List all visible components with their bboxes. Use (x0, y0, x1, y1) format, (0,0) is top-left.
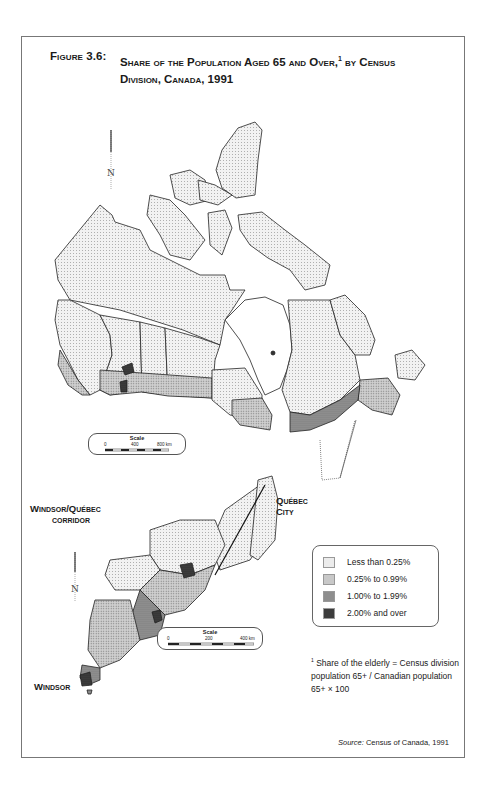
newfoundland (395, 350, 425, 380)
legend-item: 1.00% to 1.99% (323, 590, 407, 602)
source-note: Source: Census of Canada, 1991 (338, 738, 449, 747)
scale-bar-main: Scale 0 400 800 km (88, 433, 186, 455)
scale-bar-inset: Scale 0 200 400 km (157, 627, 263, 650)
ellesmere-island (216, 122, 262, 198)
quebec-east (250, 476, 278, 560)
north-arrow-main-icon: N (107, 130, 115, 190)
svg-text:N: N (71, 584, 79, 594)
quebec-city-label: Québec City (276, 495, 308, 517)
legend-swatch (323, 557, 335, 568)
southwest-ontario (88, 600, 140, 668)
inset-indicator (320, 420, 355, 480)
north-arrow-inset-icon: N (71, 552, 79, 602)
pelee-island (87, 690, 92, 694)
legend-swatch (323, 608, 335, 619)
legend-swatch (323, 591, 335, 602)
svg-text:N: N (107, 168, 115, 178)
legend-item: Less than 0.25% (323, 556, 410, 568)
footnote: 1 Share of the elderly = Census division… (311, 654, 463, 696)
calgary (120, 380, 127, 392)
windsor (80, 672, 92, 686)
scale-bar-inset-graphic (168, 642, 254, 646)
corridor-title: Windsor/Québec corridor (30, 503, 101, 525)
victoria-island (147, 195, 205, 260)
belcher-islands (271, 351, 275, 355)
maritimes (358, 378, 400, 415)
legend-item: 0.25% to 0.99% (323, 573, 407, 585)
baffin-island (238, 212, 330, 290)
legend-swatch (323, 574, 335, 585)
scale-bar-main-graphic (105, 448, 169, 452)
windsor-label: Windsor (34, 681, 70, 692)
ontario-central (232, 398, 272, 430)
arctic-island-3 (208, 210, 232, 255)
map-legend: Less than 0.25% 0.25% to 0.99% 1.00% to … (312, 545, 439, 627)
corridor-map (80, 476, 278, 694)
legend-item: 2.00% and over (323, 607, 407, 619)
